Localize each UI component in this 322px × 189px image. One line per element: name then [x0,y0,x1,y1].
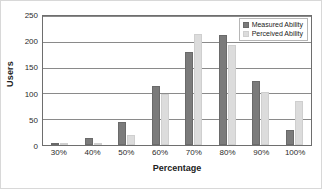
legend-item-label: Perceived Ability [252,30,303,37]
y-axis-tick-label: 0 [34,142,38,151]
x-axis-tick-label: 50% [110,148,144,162]
bar-perceived [60,143,68,145]
y-axis-tick-label: 150 [25,63,38,72]
x-axis-title: Percentage [42,163,312,173]
bar-measured [219,35,227,145]
y-axis-tick-label: 200 [25,37,38,46]
legend-item-label: Measured Ability [252,21,303,28]
bar-perceived [194,34,202,145]
bar-perceived [261,92,269,145]
legend-item: Measured Ability [243,21,303,28]
bar-measured [185,52,193,145]
bar-perceived [127,135,135,145]
legend-item: Perceived Ability [243,30,303,37]
bar-perceived [295,101,303,145]
chart-legend: Measured AbilityPerceived Ability [239,18,308,41]
bar-group [144,16,178,145]
bar-measured [118,122,126,145]
x-axis-tick-label: 30% [42,148,76,162]
bar-measured [152,86,160,145]
chart-figure: Users 050100150200250 30%40%50%60%70%80%… [0,0,322,189]
bar-measured [85,138,93,145]
x-axis-tick-label: 40% [76,148,110,162]
bar-measured [252,81,260,145]
bar-perceived [228,45,236,145]
legend-swatch-icon [243,22,249,28]
x-axis-tick-label: 100% [278,148,312,162]
y-axis-tick-label: 50 [29,115,38,124]
bar-group [43,16,77,145]
bar-measured [286,130,294,145]
bar-perceived [161,94,169,145]
bar-perceived [94,143,102,145]
x-axis-tick-label: 70% [177,148,211,162]
bar-group [77,16,111,145]
bar-group [110,16,144,145]
bar-group [177,16,211,145]
x-axis-tick-label: 90% [245,148,279,162]
y-axis-title-text: Users [5,60,15,86]
x-axis-tick-labels: 30%40%50%60%70%80%90%100% [42,148,312,162]
y-axis-tick-labels: 050100150200250 [15,15,41,146]
legend-swatch-icon [243,31,249,37]
y-axis-tick-label: 250 [25,11,38,20]
x-axis-tick-label: 60% [143,148,177,162]
x-axis-tick-label: 80% [211,148,245,162]
bar-measured [51,143,59,145]
y-axis-tick-label: 100 [25,89,38,98]
